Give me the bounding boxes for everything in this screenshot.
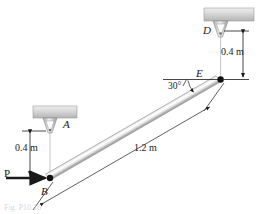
ceiling-support-block-d [204, 8, 254, 37]
rigid-bar-b-to-e [45, 76, 219, 181]
pin-node-e [217, 76, 223, 82]
figure-svg [0, 0, 266, 214]
label-point-d: D [203, 25, 211, 36]
label-dimension-right: 0.4 m [221, 47, 244, 57]
label-dimension-left: 0.4 m [15, 143, 38, 153]
ceiling-support-block-a [33, 106, 77, 133]
pin-node-b [47, 175, 53, 181]
label-angle-30: 30° [168, 82, 181, 92]
dimension-bar-1p2m [33, 83, 224, 210]
label-dimension-bar-length: 1.2 m [134, 143, 157, 153]
dimension-left-0p4m [22, 131, 46, 178]
label-point-e: E [196, 68, 203, 79]
label-point-a: A [63, 119, 70, 130]
label-force-p: P [4, 168, 10, 179]
label-point-b: B [41, 186, 48, 197]
figure-canvas: A B D E P 0.4 m 0.4 m 1.2 m 30° Fig. P10… [0, 0, 266, 214]
figure-caption: Fig. P10.16 [4, 203, 41, 212]
